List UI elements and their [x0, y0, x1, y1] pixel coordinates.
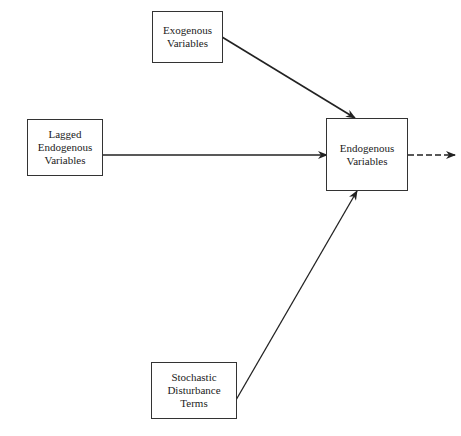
node-label-line: Lagged — [38, 128, 92, 141]
node-exogenous-variables: Exogenous Variables — [152, 11, 223, 63]
node-label-line: Exogenous — [163, 24, 212, 37]
node-label-line: Variables — [38, 154, 92, 167]
node-label-line: Variables — [340, 155, 394, 168]
edge-exogenous-to-endogenous — [222, 37, 355, 118]
edge-stochastic-to-endogenous — [236, 191, 357, 400]
node-lagged-endogenous-variables: Lagged Endogenous Variables — [27, 119, 103, 176]
node-label-line: Disturbance — [167, 384, 220, 397]
node-label-line: Endogenous — [340, 142, 394, 155]
node-endogenous-variables: Endogenous Variables — [326, 118, 408, 191]
node-label-line: Stochastic — [167, 371, 220, 384]
node-label-line: Terms — [167, 397, 220, 410]
diagram-canvas: Exogenous Variables Lagged Endogenous Va… — [0, 0, 461, 436]
node-label-line: Variables — [163, 37, 212, 50]
node-stochastic-disturbance-terms: Stochastic Disturbance Terms — [151, 362, 237, 419]
node-label-line: Endogenous — [38, 141, 92, 154]
